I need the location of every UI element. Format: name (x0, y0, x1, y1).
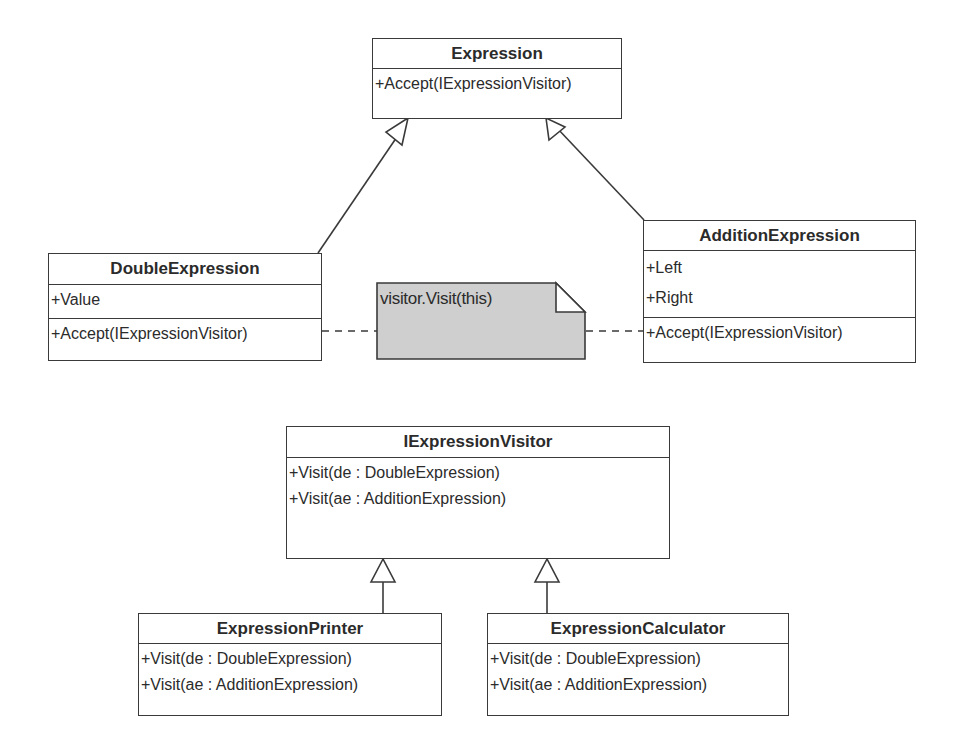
operation: +Visit(de : DoubleExpression) (141, 646, 441, 672)
operations-section: +Visit(de : DoubleExpression) +Visit(ae … (287, 458, 669, 557)
operations-section: +Visit(de : DoubleExpression) +Visit(ae … (488, 644, 788, 714)
operation: +Visit(de : DoubleExpression) (289, 460, 669, 486)
interface-iexpression-visitor[interactable]: IExpressionVisitor +Visit(de : DoubleExp… (286, 426, 670, 559)
attribute: +Left (646, 253, 915, 283)
class-expression[interactable]: Expression +Accept(IExpressionVisitor) (372, 38, 622, 119)
operation: +Accept(IExpressionVisitor) (375, 71, 621, 97)
inheritance-arrow-icon (546, 118, 565, 140)
operations-section: +Accept(IExpressionVisitor) (644, 318, 915, 361)
inheritance-arrow-icon (386, 118, 408, 145)
attribute: +Right (646, 283, 915, 313)
operation: +Accept(IExpressionVisitor) (646, 320, 915, 346)
operations-section: +Visit(de : DoubleExpression) +Visit(ae … (139, 644, 441, 714)
class-name: ExpressionCalculator (488, 614, 788, 644)
operations-section: +Accept(IExpressionVisitor) (373, 69, 621, 117)
class-expression-printer[interactable]: ExpressionPrinter +Visit(de : DoubleExpr… (138, 613, 442, 716)
class-double-expression[interactable]: DoubleExpression +Value +Accept(IExpress… (48, 253, 322, 361)
class-addition-expression[interactable]: AdditionExpression +Left +Right +Accept(… (643, 220, 916, 363)
class-name: AdditionExpression (644, 221, 915, 251)
class-name: ExpressionPrinter (139, 614, 441, 644)
operation: +Accept(IExpressionVisitor) (51, 321, 321, 347)
class-name: IExpressionVisitor (287, 427, 669, 458)
note-text: visitor.Visit(this) (380, 289, 492, 309)
inheritance-arrow-icon (371, 559, 395, 582)
class-name: Expression (373, 39, 621, 69)
note-fold (556, 283, 585, 312)
generalization-line-addition (557, 128, 644, 220)
operation: +Visit(de : DoubleExpression) (490, 646, 788, 672)
operation: +Visit(ae : AdditionExpression) (289, 486, 669, 512)
class-expression-calculator[interactable]: ExpressionCalculator +Visit(de : DoubleE… (487, 613, 789, 716)
generalization-line-double (318, 128, 403, 253)
operation: +Visit(ae : AdditionExpression) (141, 672, 441, 698)
attributes-section: +Value (49, 285, 321, 319)
inheritance-arrow-icon (535, 559, 559, 582)
attributes-section: +Left +Right (644, 251, 915, 318)
operation: +Visit(ae : AdditionExpression) (490, 672, 788, 698)
class-name: DoubleExpression (49, 254, 321, 285)
operations-section: +Accept(IExpressionVisitor) (49, 319, 321, 359)
attribute: +Value (51, 287, 321, 313)
